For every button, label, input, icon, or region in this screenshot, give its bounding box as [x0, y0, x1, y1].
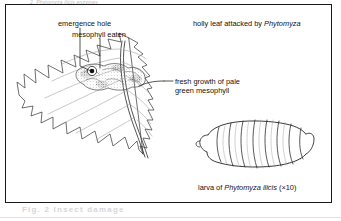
- caption-larva-magnification: (×10): [277, 183, 297, 192]
- holly-leaf-icon: [17, 33, 154, 154]
- caption-holly-leaf-text: holly leaf attacked by: [193, 19, 264, 28]
- label-mesophyll-eaten: mesophyll eaten: [72, 30, 126, 39]
- page-rule: [0, 217, 341, 218]
- caption-larva-species: Phytomyza ilicis: [224, 183, 277, 192]
- caption-larva-text: larva of: [198, 183, 224, 192]
- label-fresh-growth: fresh growth of pale green mesophyll: [175, 77, 240, 96]
- ghost-text-bottom: Fig. 2 Insect damage: [22, 205, 125, 214]
- caption-larva: larva of Phytomyza ilicis (×10): [198, 183, 296, 192]
- caption-holly-leaf-genus: Phytomyza: [264, 19, 301, 28]
- fly-larva-icon: [196, 120, 314, 168]
- emergence-hole-dot-icon: [87, 66, 96, 75]
- leaf-mine-blotch: [76, 64, 145, 91]
- caption-holly-leaf: holly leaf attacked by Phytomyza: [193, 19, 301, 28]
- label-emergence-hole: emergence hole: [58, 19, 111, 28]
- label-fresh-growth-line2: green mesophyll: [175, 86, 229, 95]
- label-fresh-growth-line1: fresh growth of pale: [175, 77, 240, 86]
